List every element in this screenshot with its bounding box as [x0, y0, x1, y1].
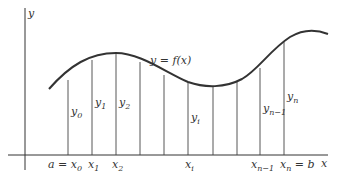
- ordinate-label-yn: yn: [286, 90, 298, 105]
- abscissa-label-x1: x1: [88, 158, 99, 173]
- abscissa-label-xn: xn = b: [280, 158, 315, 173]
- curve-label: y = f(x): [149, 54, 191, 67]
- ordinate-label-y2: y2: [118, 96, 130, 111]
- ordinate-label-yi: yi: [190, 111, 200, 126]
- abscissa-label-xn-1: xn−1: [251, 158, 274, 173]
- riemann-partition-diagram: y x y = f(x) y0 y1 y2 yi yn−1 yn a = x0 …: [0, 0, 337, 177]
- abscissa-label-xi: xi: [185, 158, 194, 173]
- ordinate-label-yn-1: yn−1: [262, 102, 286, 117]
- ordinate-label-y0: y0: [70, 105, 82, 120]
- ordinate-label-y1: y1: [94, 96, 106, 111]
- abscissa-label-x0: a = x0: [48, 158, 82, 173]
- x-axis-label: x: [321, 157, 328, 170]
- abscissa-label-x2: x2: [112, 158, 123, 173]
- y-axis-label: y: [27, 7, 35, 20]
